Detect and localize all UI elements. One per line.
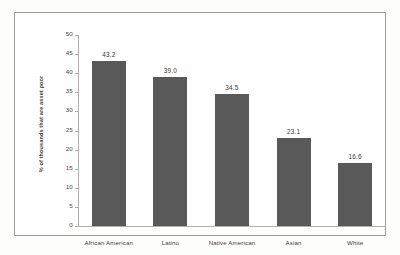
bar bbox=[92, 61, 126, 226]
category-slot: Latino bbox=[140, 231, 202, 249]
y-tick-label: 35 bbox=[66, 87, 73, 94]
bar-slot: 43.2 bbox=[78, 35, 140, 226]
chart-figure: % of thousands that are asset poor 50454… bbox=[0, 0, 400, 255]
bar bbox=[215, 94, 249, 226]
y-axis-title: % of thousands that are asset poor bbox=[37, 64, 45, 184]
bar-slot: 39.0 bbox=[140, 35, 202, 226]
y-tick-label: 0 bbox=[69, 221, 73, 228]
y-tick-mark bbox=[75, 226, 78, 227]
y-tick-label: 30 bbox=[66, 106, 73, 113]
bar-slot: 23.1 bbox=[263, 35, 325, 226]
category-label: Latino bbox=[162, 239, 180, 246]
y-tick-label: 25 bbox=[66, 126, 73, 133]
bar-slot: 16.6 bbox=[324, 35, 386, 226]
bar-value-label: 39.0 bbox=[140, 67, 202, 74]
x-axis-categories: African AmericanLatinoNative AmericanAsi… bbox=[78, 231, 386, 249]
category-label: Asian bbox=[286, 239, 302, 246]
bar bbox=[338, 163, 372, 226]
category-label: African American bbox=[85, 239, 133, 246]
bar-value-label: 23.1 bbox=[263, 128, 325, 135]
chart-border: % of thousands that are asset poor 50454… bbox=[14, 12, 386, 236]
category-slot: Native American bbox=[201, 231, 263, 249]
category-slot: African American bbox=[78, 231, 140, 249]
bar-series: 43.239.034.523.116.6 bbox=[78, 35, 386, 226]
bar-value-label: 16.6 bbox=[324, 153, 386, 160]
y-tick-label: 40 bbox=[66, 68, 73, 75]
y-tick-label: 20 bbox=[66, 145, 73, 152]
bar-value-label: 43.2 bbox=[78, 51, 140, 58]
bar bbox=[153, 77, 187, 226]
y-tick-label: 45 bbox=[66, 49, 73, 56]
category-slot: Asian bbox=[263, 231, 325, 249]
bar-slot: 34.5 bbox=[201, 35, 263, 226]
category-label: White bbox=[347, 239, 363, 246]
bar bbox=[277, 138, 311, 226]
y-tick-label: 10 bbox=[66, 183, 73, 190]
y-tick-label: 50 bbox=[66, 30, 73, 37]
y-tick-label: 15 bbox=[66, 164, 73, 171]
y-tick-label: 5 bbox=[69, 202, 73, 209]
x-axis-line bbox=[78, 226, 386, 227]
category-slot: White bbox=[324, 231, 386, 249]
bar-value-label: 34.5 bbox=[201, 84, 263, 91]
category-label: Native American bbox=[209, 239, 256, 246]
